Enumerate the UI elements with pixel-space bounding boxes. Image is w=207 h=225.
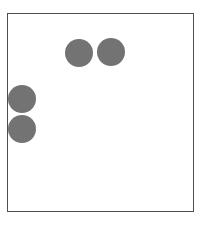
canvas-surface[interactable] xyxy=(8,14,193,211)
canvas-frame xyxy=(7,13,194,212)
dot-marker-dot-4[interactable] xyxy=(8,115,36,143)
app-root xyxy=(0,0,207,225)
dot-marker-dot-2[interactable] xyxy=(97,38,125,66)
dot-marker-dot-3[interactable] xyxy=(8,85,36,113)
dot-marker-dot-1[interactable] xyxy=(65,39,93,67)
